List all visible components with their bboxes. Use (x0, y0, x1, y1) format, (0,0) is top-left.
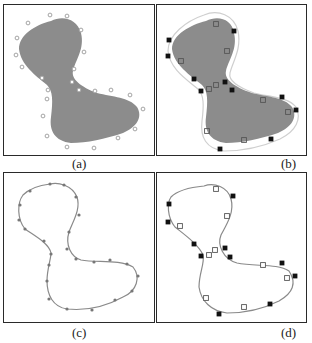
sample-circle-marker (79, 28, 83, 32)
hollow-square-marker (214, 187, 219, 192)
sample-circle-marker (48, 13, 52, 17)
hollow-square-marker (204, 296, 209, 301)
filled-square-marker (223, 246, 228, 251)
hollow-square-marker (242, 305, 247, 310)
sample-circle-marker (92, 146, 96, 150)
sample-circle-marker (40, 76, 44, 80)
filled-square-marker (192, 77, 197, 82)
panel-b-canvas (157, 5, 308, 157)
sample-circle-marker (116, 136, 120, 140)
sample-dot-marker (65, 247, 68, 250)
caption-c: (c) (72, 326, 86, 339)
filled-square-marker (166, 54, 171, 59)
sample-circle-marker (46, 88, 50, 92)
sample-dot-marker (90, 308, 93, 311)
sample-dot-marker (65, 307, 68, 310)
sample-dot-marker (74, 195, 77, 198)
filled-square-marker (268, 302, 273, 307)
caption-b: (b) (281, 157, 296, 170)
dumbbell-shape-fill (172, 18, 294, 143)
hollow-square-marker (225, 214, 230, 219)
sample-dot-marker (49, 252, 52, 255)
panel-d (156, 172, 307, 323)
dumbbell-shape-fill (19, 18, 139, 143)
sample-dot-marker (108, 258, 111, 261)
sample-circle-marker (20, 65, 24, 69)
sample-dot-marker (48, 182, 51, 185)
closed-curve (168, 185, 293, 313)
sample-dot-marker (77, 213, 80, 216)
filled-square-marker (192, 242, 197, 247)
sample-circle-marker (15, 36, 19, 40)
sample-circle-marker (93, 89, 97, 93)
sample-dot-marker (17, 218, 20, 221)
panel-d-canvas (157, 173, 308, 324)
filled-square-marker (217, 312, 222, 317)
filled-square-marker (280, 95, 285, 100)
panel-a-canvas (4, 5, 156, 157)
sample-circle-marker (45, 134, 49, 138)
sample-circle-marker (133, 127, 137, 131)
filled-square-marker (231, 194, 236, 199)
sample-dot-marker (47, 263, 50, 266)
filled-square-marker (232, 29, 237, 34)
sample-circle-marker (65, 14, 69, 18)
filled-square-marker (293, 274, 298, 279)
sample-dot-marker (130, 289, 133, 292)
sample-circle-marker (65, 145, 69, 149)
hollow-square-marker (285, 276, 290, 281)
hollow-square-marker (261, 263, 266, 268)
filled-square-marker (166, 220, 171, 225)
sample-dot-marker (125, 262, 128, 265)
sample-circle-marker (77, 88, 81, 92)
hollow-square-marker (207, 253, 212, 258)
panel-b (156, 4, 307, 156)
sample-dot-marker (23, 227, 26, 230)
sample-circle-marker (82, 50, 86, 54)
sample-dot-marker (45, 279, 48, 282)
caption-a: (a) (72, 157, 86, 170)
closed-curve (19, 183, 137, 309)
sample-circle-marker (141, 107, 145, 111)
sample-dot-marker (113, 298, 116, 301)
sample-dot-marker (67, 230, 70, 233)
filled-square-marker (218, 147, 223, 152)
filled-square-marker (230, 88, 235, 93)
filled-square-marker (269, 137, 274, 142)
filled-square-marker (223, 80, 228, 85)
filled-square-marker (228, 255, 233, 260)
filled-square-marker (167, 202, 172, 207)
filled-square-marker (294, 108, 299, 113)
sample-circle-marker (45, 97, 49, 101)
panel-c-canvas (4, 173, 156, 324)
sample-circle-marker (128, 93, 132, 97)
sample-dot-marker (42, 239, 45, 242)
sample-dot-marker (18, 203, 21, 206)
hollow-square-points (178, 187, 290, 310)
sample-circle-marker (70, 80, 74, 84)
sample-dot-marker (136, 274, 139, 277)
sample-dot-marker (74, 257, 77, 260)
hollow-square-marker (178, 224, 183, 229)
sample-dot-marker (28, 189, 31, 192)
caption-d: (d) (281, 326, 296, 339)
sample-circle-marker (72, 67, 76, 71)
filled-square-marker (167, 38, 172, 43)
sample-dot-marker (62, 183, 65, 186)
sample-circle-marker (41, 114, 45, 118)
sample-circle-marker (109, 88, 113, 92)
panel-a (3, 4, 155, 156)
filled-square-marker (199, 89, 204, 94)
sample-circle-marker (14, 53, 18, 57)
filled-square-marker (199, 254, 204, 259)
filled-square-marker (280, 261, 285, 266)
sample-dot-marker (92, 260, 95, 263)
hollow-square-marker (213, 248, 218, 253)
sample-circle-marker (26, 21, 30, 25)
panel-c (3, 172, 155, 323)
sample-dot-marker (47, 297, 50, 300)
